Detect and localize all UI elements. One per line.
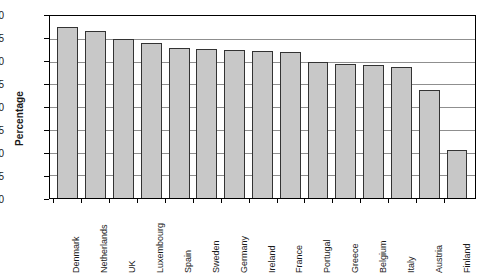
bar-chart: Percentage 6065707580859095100 DenmarkNe… — [0, 0, 485, 273]
x-label-slot: Luxembourg — [137, 203, 165, 273]
y-axis-tick-label: 60 — [0, 194, 4, 205]
x-label-slot: France — [277, 203, 305, 273]
x-label-slot: Italy — [388, 203, 416, 273]
x-axis-tick-label: France — [295, 203, 304, 273]
plot-area — [49, 15, 476, 199]
bar — [141, 43, 162, 198]
y-axis-tick-label: 70 — [0, 148, 4, 159]
x-axis-tick-label: Germany — [239, 203, 248, 273]
x-label-slot: Ireland — [249, 203, 277, 273]
x-axis-tick-label: UK — [127, 203, 136, 273]
bar-slot — [221, 16, 249, 198]
bar — [252, 51, 273, 198]
bar — [113, 39, 134, 198]
bar-slot — [443, 16, 471, 198]
x-label-slot: Netherlands — [81, 203, 109, 273]
x-axis-tick-label: Netherlands — [99, 203, 108, 273]
bar-slot — [360, 16, 388, 198]
bar-slot — [54, 16, 82, 198]
x-axis-tick-label: Austria — [435, 203, 444, 273]
bar-slot — [388, 16, 416, 198]
bar — [335, 64, 356, 198]
x-label-slot: UK — [109, 203, 137, 273]
bar-slot — [165, 16, 193, 198]
bar — [363, 65, 384, 198]
bar-slot — [415, 16, 443, 198]
bar-slot — [193, 16, 221, 198]
x-axis-tick-label: Sweden — [211, 203, 220, 273]
x-label-slot: Finland — [444, 203, 472, 273]
x-label-slot: Germany — [221, 203, 249, 273]
y-axis-tick-label: 85 — [0, 79, 4, 90]
bar — [224, 50, 245, 198]
x-axis-tick-label: Spain — [183, 203, 192, 273]
x-label-slot: Greece — [332, 203, 360, 273]
x-axis-tick-label: Belgium — [379, 203, 388, 273]
bar-series — [50, 16, 475, 198]
x-label-slot: Spain — [165, 203, 193, 273]
bar-slot — [304, 16, 332, 198]
y-axis-tick-label: 95 — [0, 33, 4, 44]
y-axis-tick-label: 90 — [0, 56, 4, 67]
x-axis-tick-label: Ireland — [267, 203, 276, 273]
x-axis-tick-label: Denmark — [71, 203, 80, 273]
bar-slot — [332, 16, 360, 198]
bar — [169, 48, 190, 198]
y-axis-tick-label: 65 — [0, 171, 4, 182]
x-label-slot: Austria — [416, 203, 444, 273]
x-label-slot: Denmark — [53, 203, 81, 273]
bar-slot — [110, 16, 138, 198]
bar — [308, 62, 329, 198]
bar — [57, 27, 78, 198]
x-axis-tick-label: Italy — [407, 203, 416, 273]
bar — [280, 52, 301, 199]
bar — [419, 90, 440, 198]
y-axis-title: Percentage — [14, 74, 25, 164]
bar — [85, 31, 106, 198]
y-axis-tick-label: 100 — [0, 10, 4, 21]
x-axis-tick-label: Luxembourg — [155, 203, 164, 273]
x-label-slot: Sweden — [193, 203, 221, 273]
bar-slot — [82, 16, 110, 198]
bar — [196, 49, 217, 198]
bar — [391, 67, 412, 198]
x-axis-tick-label: Finland — [463, 203, 472, 273]
x-axis-tick-labels: DenmarkNetherlandsUKLuxembourgSpainSwede… — [49, 203, 476, 273]
bar-slot — [276, 16, 304, 198]
x-axis-tick-label: Greece — [351, 203, 360, 273]
x-label-slot: Portugal — [304, 203, 332, 273]
x-label-slot: Belgium — [360, 203, 388, 273]
bar-slot — [137, 16, 165, 198]
y-axis-tick-label: 75 — [0, 125, 4, 136]
bar-slot — [249, 16, 277, 198]
x-axis-tick-label: Portugal — [323, 203, 332, 273]
bar — [447, 150, 468, 198]
y-axis-tick-label: 80 — [0, 102, 4, 113]
